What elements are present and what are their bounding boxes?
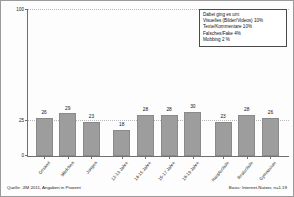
bar[interactable]	[83, 122, 100, 156]
bar-value-label: 28	[244, 108, 249, 113]
y-tick-label-25: 25	[19, 119, 24, 124]
bar-slot: 29	[59, 9, 76, 156]
bar[interactable]	[59, 113, 76, 156]
bar-slot: 18	[113, 9, 130, 156]
x-axis-label: Jungen	[86, 161, 99, 175]
bar-value-label: 30	[190, 105, 195, 110]
bar-value-label: 26	[268, 111, 273, 116]
basis-note: Basis: Internet-Nutzer, n=1.19	[229, 186, 287, 190]
x-axis-label: 16-17 Jahre	[158, 161, 176, 182]
x-axis-label: Realschule	[237, 161, 254, 180]
bar-slot: 28	[161, 9, 178, 156]
bar-value-label: 28	[166, 108, 171, 113]
x-axis-label: 12-13 Jahre	[111, 161, 129, 182]
source-note: Quelle: JIM 2011, Angaben in Prozent	[7, 186, 81, 190]
x-tick-mark	[68, 156, 69, 159]
bar[interactable]	[161, 115, 178, 156]
x-tick-mark	[270, 156, 271, 159]
y-tick-label-0: 0	[21, 154, 24, 159]
bar-slot: 28	[137, 9, 154, 156]
bar-slot: 26	[36, 9, 53, 156]
x-tick-mark	[223, 156, 224, 159]
bar[interactable]	[184, 112, 201, 156]
x-axis-label: Mädchen	[60, 161, 75, 178]
legend-item-mobbing: Mobbing 2 %	[203, 37, 283, 43]
x-axis-label: Gymnasium	[259, 161, 277, 182]
x-tick-mark	[44, 156, 45, 159]
bar[interactable]	[262, 118, 279, 156]
x-axis-label: 18-19 Jahre	[182, 161, 200, 182]
bar-value-label: 23	[89, 115, 94, 120]
x-tick-mark	[122, 156, 123, 159]
x-tick-mark	[193, 156, 194, 159]
x-axis-label: 14-15 Jahre	[134, 161, 152, 182]
bar[interactable]	[36, 118, 53, 156]
bar-slot: 23	[83, 9, 100, 156]
bar-value-label: 18	[119, 123, 124, 128]
chart-frame: 100 25 0 26292318282830232826 GesamtMädc…	[0, 0, 294, 197]
bar-value-label: 29	[65, 107, 70, 112]
x-tick-mark	[145, 156, 146, 159]
x-axis-line	[27, 156, 289, 157]
bar[interactable]	[238, 115, 255, 156]
x-axis-label: Hauptschule	[211, 161, 230, 183]
x-tick-mark	[169, 156, 170, 159]
x-tick-mark	[91, 156, 92, 159]
y-tick-label-100: 100	[16, 8, 24, 13]
bar-value-label: 26	[41, 111, 46, 116]
bar-value-label: 23	[220, 115, 225, 120]
bar[interactable]	[137, 115, 154, 156]
bar-value-label: 28	[143, 108, 148, 113]
x-axis-label: Gesamt	[38, 161, 51, 176]
bar[interactable]	[215, 122, 232, 156]
x-tick-mark	[247, 156, 248, 159]
legend-box: Dabei ging es um: Visuelles (Bilder/Vide…	[199, 9, 287, 47]
bar[interactable]	[113, 130, 130, 156]
